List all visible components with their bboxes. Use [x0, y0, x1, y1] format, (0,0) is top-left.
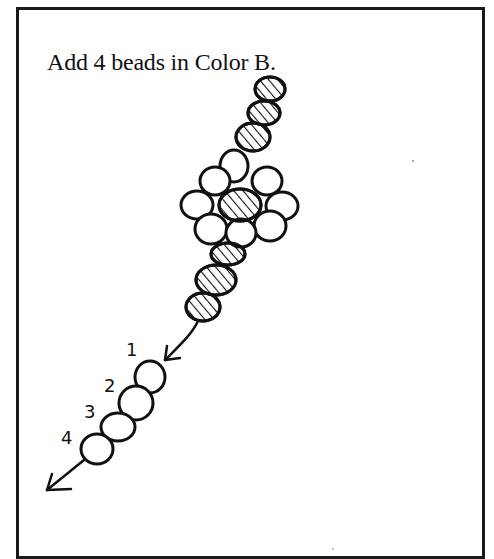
new-bead-4	[81, 434, 113, 464]
svg-text:1: 1	[126, 339, 137, 360]
open-bead	[195, 214, 227, 244]
open-bead	[254, 211, 286, 241]
open-bead	[200, 167, 230, 195]
svg-text:2: 2	[104, 375, 115, 396]
svg-text:4: 4	[61, 427, 72, 448]
hatched-bead	[236, 123, 270, 151]
hatched-center-bead	[219, 189, 261, 221]
svg-text:3: 3	[84, 401, 95, 422]
paper-speck	[412, 160, 414, 162]
hatched-bead	[196, 265, 236, 295]
hatched-bead	[248, 101, 280, 125]
hatched-bead	[255, 77, 285, 101]
hatched-bead	[186, 293, 220, 321]
thread-arrow-out	[47, 460, 84, 490]
paper-speck	[332, 548, 334, 550]
open-bead	[252, 167, 282, 195]
thread-arrow-in	[165, 321, 198, 360]
hatched-bead	[211, 243, 245, 265]
